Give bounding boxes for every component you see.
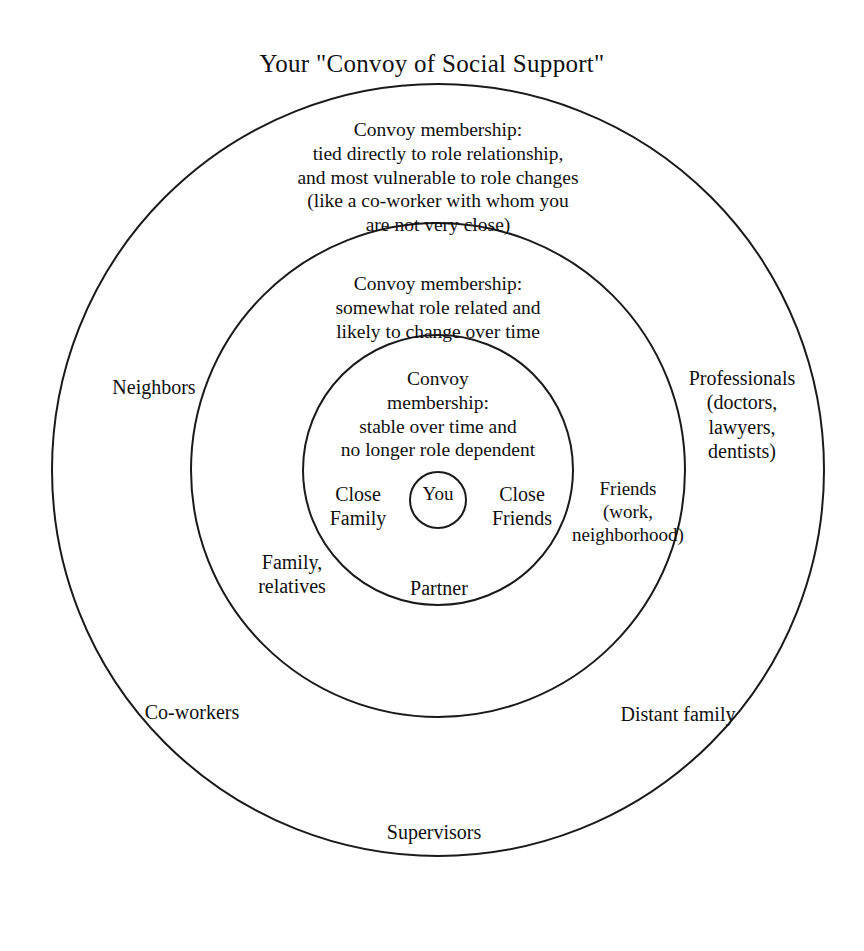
outer-member-professionals: Professionals (doctors, lawyers, dentist…	[672, 366, 812, 464]
middle-ring-description: Convoy membership: somewhat role related…	[260, 272, 616, 343]
inner-ring-description: Convoy membership: stable over time and …	[302, 367, 574, 462]
convoy-diagram: Your "Convoy of Social Support" Convoy m…	[0, 0, 864, 951]
outer-member-supervisors: Supervisors	[348, 820, 520, 844]
outer-member-co-workers: Co-workers	[112, 700, 272, 724]
middle-member-friends: Friends (work, neighborhood)	[566, 477, 690, 547]
outer-member-distant-family: Distant family	[588, 702, 768, 726]
outer-member-neighbors: Neighbors	[84, 375, 224, 399]
inner-member-partner: Partner	[382, 576, 496, 600]
middle-member-family-relatives: Family, relatives	[236, 550, 348, 599]
inner-member-close-friends: Close Friends	[472, 482, 572, 531]
page-title: Your "Convoy of Social Support"	[0, 50, 864, 78]
inner-member-close-family: Close Family	[312, 482, 404, 531]
center-you-label: You	[409, 482, 467, 505]
outer-ring-description: Convoy membership: tied directly to role…	[232, 118, 644, 237]
